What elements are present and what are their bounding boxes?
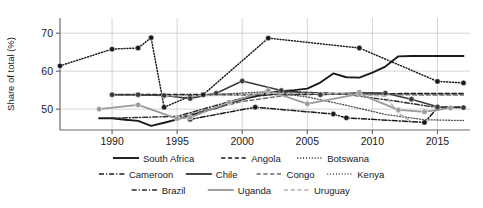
y-tick-label: 60 xyxy=(41,65,53,77)
y-tick-label: 50 xyxy=(41,103,53,115)
figure-background xyxy=(0,0,483,208)
data-point-marker xyxy=(435,79,440,84)
legend-label-uruguay: Uruguay xyxy=(314,185,350,196)
data-point-marker xyxy=(409,97,414,102)
x-tick-label: 1995 xyxy=(165,135,189,147)
data-point-marker xyxy=(396,107,401,112)
legend-label-brazil: Brazil xyxy=(162,185,186,196)
legend-label-angola: Angola xyxy=(251,153,281,164)
x-tick-label: 2005 xyxy=(296,135,320,147)
data-point-marker xyxy=(135,102,140,107)
data-point-marker xyxy=(109,46,114,51)
legend-label-uganda: Uganda xyxy=(238,185,272,196)
legend-label-congo: Congo xyxy=(287,169,315,180)
x-tick-label: 2000 xyxy=(231,135,255,147)
data-point-marker xyxy=(422,109,427,114)
data-point-marker xyxy=(318,92,323,97)
data-point-marker xyxy=(213,90,218,95)
data-point-marker xyxy=(461,105,466,110)
data-point-marker xyxy=(240,78,245,83)
data-point-marker xyxy=(422,120,427,125)
data-point-marker xyxy=(109,92,114,97)
x-tick-label: 2015 xyxy=(426,135,450,147)
data-point-marker xyxy=(161,93,166,98)
x-tick-label: 2010 xyxy=(361,135,385,147)
data-point-marker xyxy=(383,90,388,95)
y-tick-label: 70 xyxy=(41,27,53,39)
data-point-marker xyxy=(187,96,192,101)
legend-label-south-africa: South Africa xyxy=(143,153,195,164)
data-point-marker xyxy=(148,35,153,40)
data-point-marker xyxy=(266,35,271,40)
data-point-marker xyxy=(344,115,349,120)
data-point-marker xyxy=(331,111,336,116)
data-point-marker xyxy=(461,80,466,85)
data-point-marker xyxy=(448,105,453,110)
legend-label-botswana: Botswana xyxy=(327,153,369,164)
legend-label-chile: Chile xyxy=(216,169,238,180)
line-chart-figure: 506070 199019952000200520102015 Share of… xyxy=(0,0,483,208)
legend-label-kenya: Kenya xyxy=(357,169,385,180)
data-point-marker xyxy=(187,115,192,120)
x-tick-label: 1990 xyxy=(100,135,124,147)
data-point-marker xyxy=(161,105,166,110)
data-point-marker xyxy=(266,88,271,93)
y-axis-title: Share of total (%) xyxy=(5,37,16,111)
data-point-marker xyxy=(135,92,140,97)
data-point-marker xyxy=(57,63,62,68)
data-point-marker xyxy=(253,105,258,110)
data-point-marker xyxy=(200,92,205,97)
data-point-marker xyxy=(357,45,362,50)
legend-label-cameroon: Cameroon xyxy=(129,169,173,180)
data-point-marker xyxy=(174,116,179,121)
data-point-marker xyxy=(135,45,140,50)
data-point-marker xyxy=(435,104,440,109)
data-point-marker xyxy=(357,91,362,96)
data-point-marker xyxy=(227,100,232,105)
data-point-marker xyxy=(279,88,284,93)
data-point-marker xyxy=(305,101,310,106)
data-point-marker xyxy=(96,106,101,111)
chart-container: 506070 199019952000200520102015 Share of… xyxy=(0,0,483,208)
